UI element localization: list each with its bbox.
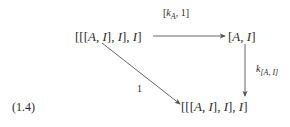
arrow-diagonal [102,43,180,104]
label-top-arrow: [kA, 1] [163,8,189,18]
sep: ], [228,99,239,114]
label-right-arrow: k[A, I] [256,64,278,74]
var-a: A [88,29,96,44]
bracket: ] [251,29,255,44]
bracket: ] [137,29,141,44]
bracket: [[[ [75,29,88,44]
node-top-left: [[[A, I], I], I] [75,30,142,43]
equation-number: (1.4) [12,101,35,113]
subscript: A [171,12,176,21]
sep: ], [107,29,118,44]
node-bottom: [[[A, I], I], I] [181,100,248,113]
node-top-right: [A, I] [228,30,255,43]
label-diagonal-arrow: 1 [137,84,142,94]
subscript: [A, I] [260,68,278,77]
label-rest: , 1] [176,7,189,18]
sep: ], [213,99,224,114]
identity-label: 1 [137,83,142,94]
var-a: A [194,99,202,114]
bracket: ] [243,99,247,114]
bracket: [[[ [181,99,194,114]
sep: ], [122,29,133,44]
